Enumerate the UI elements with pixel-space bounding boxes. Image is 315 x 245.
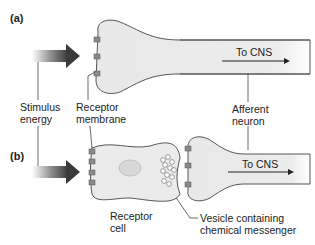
afferent-neuron-a (96, 20, 310, 93)
nucleus (119, 160, 141, 176)
receptor-membrane-label: Receptor membrane (76, 101, 126, 125)
stimulus-energy-label: Stimulus energy (20, 101, 60, 125)
stimulus-arrow-a (32, 44, 80, 68)
receptor-cell-label: Receptor cell (110, 210, 153, 234)
panel-label-a: (a) (10, 12, 23, 24)
panel-label-b: (b) (10, 150, 24, 162)
afferent-neuron-label: Afferent neuron (232, 103, 269, 127)
vesicle-label: Vesicle containing chemical messenger (200, 212, 296, 236)
receptor-cell (91, 143, 181, 201)
stimulus-arrow-b (32, 160, 80, 184)
to-cns-label-a: To CNS (236, 46, 272, 58)
to-cns-label-b: To CNS (242, 158, 278, 170)
